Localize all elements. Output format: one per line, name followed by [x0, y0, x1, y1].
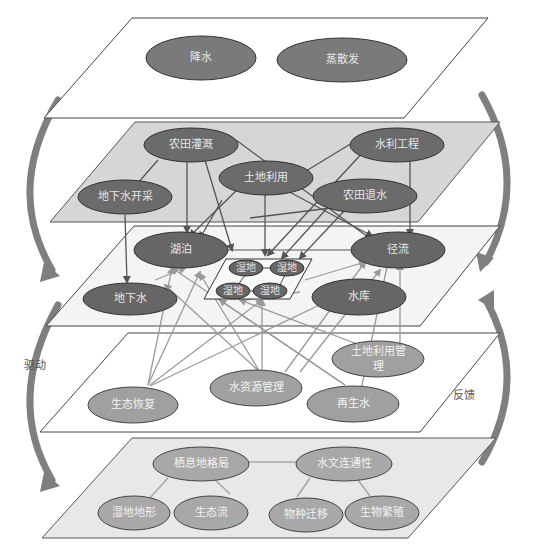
- node-topography-label: 湿地地形: [112, 506, 156, 519]
- node-wetland-1-label: 湿地: [236, 261, 256, 273]
- node-reproduction-label: 生物繁殖: [360, 505, 404, 519]
- diagram-canvas: 驱动 反馈 降水 蒸散发 农田灌溉 水利工程 土地利用 地下水开采 农田退水: [0, 0, 534, 554]
- node-connectivity-label: 水文连通性: [317, 456, 372, 470]
- node-gw-extract-label: 地下水开采: [98, 190, 153, 203]
- multi-layer-diagram: 驱动 反馈 降水 蒸散发 农田灌溉 水利工程 土地利用 地下水开采 农田退水: [0, 0, 534, 554]
- node-wetland-3-label: 湿地: [223, 284, 243, 296]
- node-landuse-label: 土地利用: [244, 171, 288, 184]
- node-wetland-4-label: 湿地: [260, 284, 280, 296]
- node-eco-restore-label: 生态恢复: [111, 397, 155, 411]
- node-migration-label: 物种迁移: [284, 507, 328, 521]
- label-drive: 驱动: [24, 359, 46, 372]
- node-hydro-eng-label: 水利工程: [375, 138, 419, 151]
- node-runoff-label: 径流: [387, 242, 409, 256]
- layer-plane-climate: [44, 18, 488, 118]
- curved-arrow-left-top: [30, 100, 58, 270]
- svg-text:.........: .........: [258, 278, 267, 282]
- node-evap-label: 蒸散发: [326, 52, 359, 66]
- node-habitat-label: 栖息地格局: [174, 456, 229, 470]
- label-feedback: 反馈: [453, 389, 475, 402]
- node-lake-label: 湖泊: [170, 243, 192, 256]
- node-landuse-mgmt-label: 土地利用管: [351, 344, 406, 358]
- node-ecoflow-label: 生态流: [195, 505, 228, 519]
- node-groundwater-label: 地下水: [114, 292, 147, 305]
- node-precip-label: 降水: [190, 50, 212, 64]
- node-reservoir-label: 水库: [348, 290, 370, 303]
- node-water-mgmt-label: 水资源管理: [229, 380, 284, 394]
- node-wetland-2-label: 湿地: [277, 261, 297, 273]
- curved-arrow-left-bottom: [30, 305, 58, 480]
- node-drainage-label: 农田退水: [343, 188, 387, 202]
- node-recycled-label: 再生水: [337, 396, 370, 410]
- node-irrigation-label: 农田灌溉: [169, 137, 213, 151]
- node-landuse-mgmt-label-line2: 理: [373, 360, 384, 373]
